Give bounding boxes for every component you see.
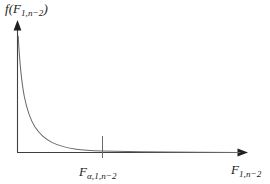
critical-value-label: Fα,1,n−2 <box>79 165 117 178</box>
f-distribution-figure: f(F1,n−2) F1,n−2 Fα,1,n−2 <box>0 0 270 184</box>
y-axis-label-variable: F <box>13 1 21 16</box>
critical-value-label-variable: F <box>79 164 87 179</box>
y-axis-label-close-paren: ) <box>43 1 47 16</box>
x-axis-label-subscript: 1,n−2 <box>239 169 262 179</box>
y-axis-label-subscript: 1,n−2 <box>21 8 44 18</box>
plot-canvas <box>0 0 270 184</box>
figure-background <box>0 0 270 184</box>
critical-value-label-subscript: α,1,n−2 <box>87 171 117 181</box>
y-axis-label: f(F1,n−2) <box>5 2 48 15</box>
x-axis-label: F1,n−2 <box>231 163 261 176</box>
x-axis-label-variable: F <box>231 162 239 177</box>
